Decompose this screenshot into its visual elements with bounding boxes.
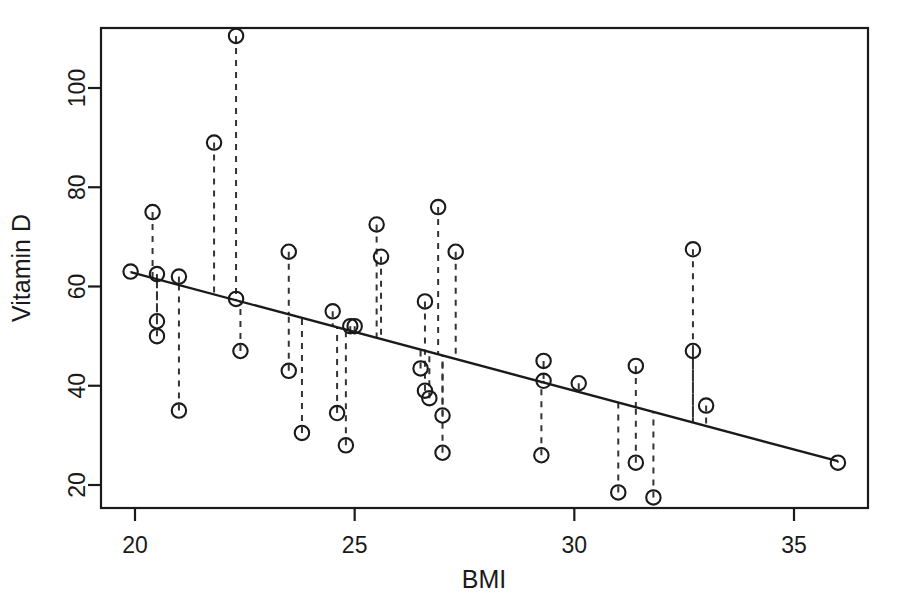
scatter-plot-figure: 20253035 20406080100 BMI Vitamin D: [0, 0, 897, 612]
y-axis-tick-label: 40: [64, 373, 90, 399]
y-axis-title: Vitamin D: [7, 214, 35, 322]
x-axis-title: BMI: [462, 565, 506, 593]
plot-canvas: 20253035 20406080100 BMI Vitamin D: [0, 0, 897, 612]
x-axis-tick-label: 30: [562, 532, 588, 558]
y-axis-tick-label: 60: [64, 274, 90, 300]
x-axis-tick-label: 25: [342, 532, 368, 558]
x-axis-tick-label: 35: [781, 532, 807, 558]
x-axis-tick-label: 20: [122, 532, 148, 558]
y-axis-tick-label: 20: [64, 472, 90, 498]
y-axis-tick-label: 80: [64, 174, 90, 200]
y-axis-tick-label: 100: [64, 69, 90, 107]
